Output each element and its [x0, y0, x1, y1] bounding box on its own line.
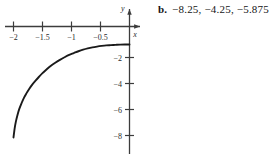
- y-tick-label: −8: [113, 132, 122, 141]
- curve-path: [14, 44, 130, 137]
- y-axis-tick-labels: −2 −4 −6 −8: [113, 54, 122, 141]
- x-axis-label: x: [132, 30, 137, 39]
- x-tick-label: −0.5: [93, 33, 108, 42]
- x-axis-tick-labels: −2 −1.5 −1 −0.5: [9, 33, 108, 42]
- x-tick-label: −2: [9, 33, 18, 42]
- x-tick-label: −1.5: [35, 33, 50, 42]
- y-tick-label: −6: [113, 106, 122, 115]
- graph-figure: b.−8.25, −4.25, −5.875: [0, 0, 277, 154]
- y-axis-label: y: [120, 4, 125, 13]
- y-tick-label: −2: [113, 54, 122, 63]
- coordinate-plot: −2 −1.5 −1 −0.5 −2 −4 −6 −8 y x: [0, 0, 277, 154]
- y-tick-label: −4: [113, 80, 122, 89]
- x-tick-label: −1: [67, 33, 76, 42]
